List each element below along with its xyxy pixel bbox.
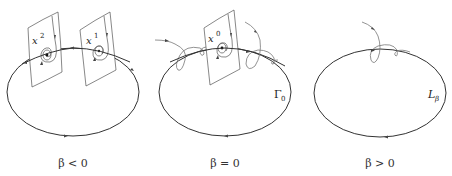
panel-beta-zero: x 0 Γ 0 β = 0 [155,10,291,170]
caption-beta-positive: β > 0 [365,157,395,170]
fixed-point-superscript-x1: 1 [94,32,98,40]
panel-beta-negative: x 2 x 1 β < 0 [7,12,139,170]
incoming-trajectory-left [155,40,206,70]
orbit-arrow [384,136,388,139]
fixed-point-label-x2: x [32,35,38,46]
limit-cycle [314,49,446,137]
orbit-arrow [64,135,68,138]
orbit-label-lbeta-subscript: β [434,95,439,103]
orbit-arrow [70,47,74,50]
fixed-point-superscript-x0: 0 [216,30,220,38]
fixed-point-label-x1: x [86,35,92,46]
local-surface-x0: x 0 [204,10,240,85]
fixed-point-label-x0: x [208,33,214,44]
fixed-point-superscript-x2: 2 [40,32,44,40]
caption-beta-negative: β < 0 [58,157,88,170]
orbit-label-gamma0-subscript: 0 [281,95,285,103]
orbit-arrow [224,135,228,138]
bifurcation-diagram: x 2 x 1 β < 0 [0,0,452,176]
caption-beta-zero: β = 0 [210,157,240,170]
panel-beta-positive: L β β > 0 [314,22,446,170]
incoming-trajectory [362,22,410,63]
local-surface-x2: x 2 [28,12,62,87]
